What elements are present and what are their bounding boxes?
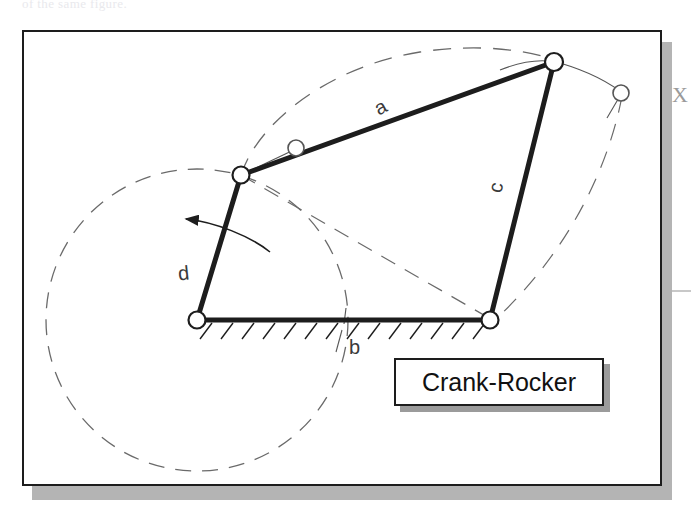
margin-glyph-x: X — [672, 82, 688, 108]
page-cutoff-text: of the same figure. — [22, 0, 127, 12]
margin-rule — [672, 290, 691, 292]
figure-frame — [22, 30, 662, 486]
scanned-page: of the same figure. X — [0, 0, 691, 510]
caption-box: Crank-Rocker — [394, 358, 604, 406]
label-link-b: b — [349, 336, 360, 359]
caption-text: Crank-Rocker — [422, 368, 576, 397]
label-link-d: d — [177, 261, 190, 285]
